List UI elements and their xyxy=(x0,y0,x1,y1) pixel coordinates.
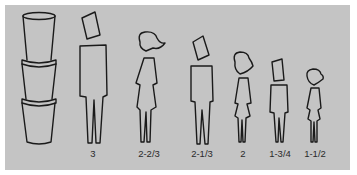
figure-label: 2-2/3 xyxy=(138,148,160,159)
figure-label: 1-1/2 xyxy=(304,148,326,159)
figure-label: 2 xyxy=(240,148,245,159)
man-figure-icon xyxy=(191,36,213,144)
boy-figure-icon xyxy=(270,59,288,142)
stacked-cups-icon xyxy=(22,13,56,145)
girl-figure-icon xyxy=(307,69,323,142)
woman-figure-icon xyxy=(136,32,165,142)
man-figure-icon xyxy=(80,12,107,143)
figure-label: 2-1/3 xyxy=(191,148,213,159)
figure-label: 3 xyxy=(90,148,95,159)
girl-figure-icon xyxy=(234,52,253,142)
figure-label: 1-3/4 xyxy=(269,148,291,159)
